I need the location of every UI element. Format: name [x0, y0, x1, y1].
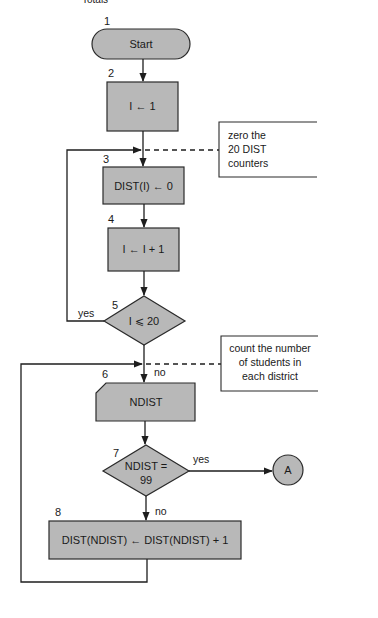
node-number-7: 7 [113, 447, 119, 459]
annotation-1-line-1: zero the [228, 129, 266, 141]
decision-i-le-20-label: I ⩽ 20 [129, 315, 159, 327]
process-zero-dist-label: DIST(I) ← 0 [114, 180, 173, 192]
decision-ndist-99-label-1: NDIST = [125, 460, 167, 472]
edge-label-no-5: no [154, 366, 166, 378]
edge-label-yes-7: yes [193, 453, 209, 465]
node-number-8: 8 [55, 506, 61, 518]
decision-ndist-99-label-2: 99 [140, 474, 152, 486]
annotation-1-line-3: counters [228, 157, 268, 169]
edge-label-yes-5: yes [78, 307, 94, 319]
start-label: Start [129, 38, 152, 50]
connector-a-label: A [284, 464, 292, 476]
node-number-3: 3 [103, 153, 109, 165]
annotation-2-line-3: each district [242, 370, 298, 382]
node-number-4: 4 [108, 213, 114, 225]
annotation-1-line-2: 20 DIST [228, 143, 267, 155]
node-number-1: 1 [104, 15, 110, 27]
node-number-2: 2 [108, 67, 114, 79]
input-card-ndist-label: NDIST [130, 396, 163, 408]
node-number-6: 6 [102, 368, 108, 380]
clipped-title: Totals [82, 0, 108, 5]
process-increment-dist-label: DIST(NDIST) ← DIST(NDIST) + 1 [62, 534, 229, 546]
node-number-5: 5 [112, 299, 118, 311]
process-increment-i-label: I ← I + 1 [123, 243, 165, 255]
edge-label-no-7: no [155, 505, 167, 517]
annotation-2-line-1: count the number [229, 342, 311, 354]
process-init-i-label: I ← 1 [129, 100, 155, 112]
flowchart: Totals 1 Start 2 I ← 1 yes zero the 20 D… [0, 0, 378, 618]
annotation-2-line-2: of students in [239, 356, 302, 368]
